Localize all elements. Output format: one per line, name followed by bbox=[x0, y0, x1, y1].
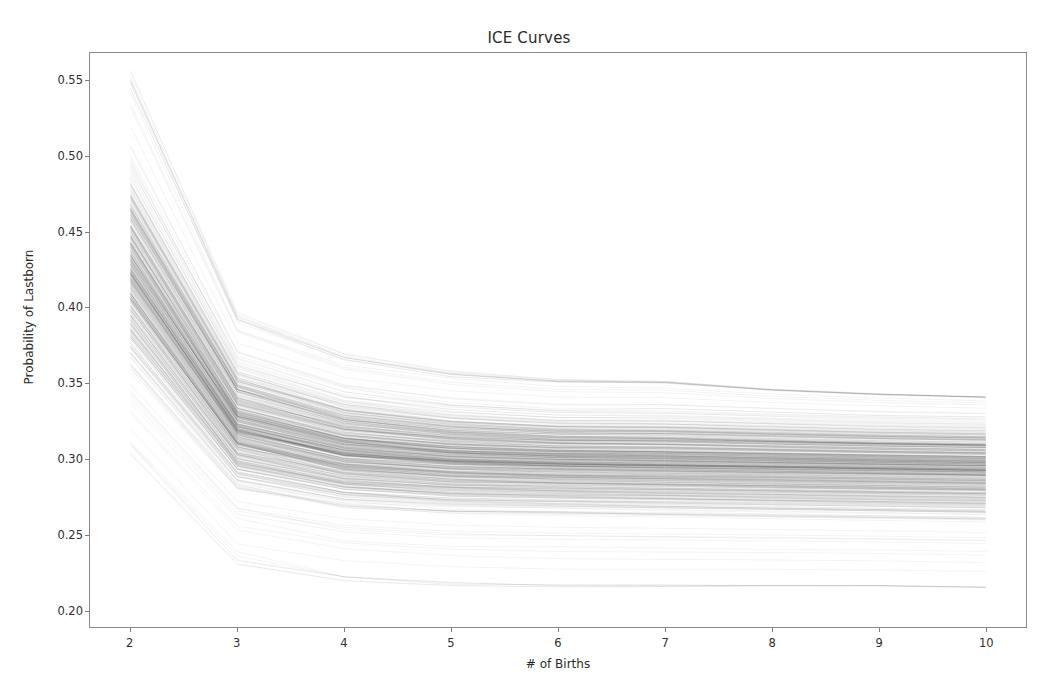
x-tick-label: 4 bbox=[324, 636, 364, 650]
x-tick-mark bbox=[665, 628, 666, 632]
x-tick-label: 7 bbox=[645, 636, 685, 650]
x-tick-mark bbox=[879, 628, 880, 632]
x-tick-label: 3 bbox=[217, 636, 257, 650]
y-tick-mark bbox=[85, 535, 89, 536]
x-tick-label: 6 bbox=[538, 636, 578, 650]
x-tick-label: 9 bbox=[859, 636, 899, 650]
y-tick-mark bbox=[85, 80, 89, 81]
y-tick-mark bbox=[85, 156, 89, 157]
y-tick-mark bbox=[85, 611, 89, 612]
x-tick-label: 8 bbox=[752, 636, 792, 650]
x-axis-ticks: 2345678910 bbox=[0, 0, 1058, 699]
y-tick-mark bbox=[85, 459, 89, 460]
x-tick-mark bbox=[451, 628, 452, 632]
ice-curves-figure: ICE Curves 0.200.250.300.350.400.450.500… bbox=[0, 0, 1058, 699]
x-tick-mark bbox=[986, 628, 987, 632]
y-axis-label: Probability of Lastborn bbox=[22, 227, 36, 407]
y-tick-mark bbox=[85, 232, 89, 233]
x-tick-mark bbox=[344, 628, 345, 632]
x-tick-mark bbox=[237, 628, 238, 632]
x-tick-label: 10 bbox=[966, 636, 1006, 650]
x-tick-mark bbox=[130, 628, 131, 632]
x-tick-mark bbox=[558, 628, 559, 632]
y-tick-mark bbox=[85, 307, 89, 308]
y-tick-mark bbox=[85, 383, 89, 384]
x-axis-label: # of Births bbox=[89, 657, 1027, 671]
x-tick-label: 5 bbox=[431, 636, 471, 650]
x-tick-mark bbox=[772, 628, 773, 632]
x-tick-label: 2 bbox=[110, 636, 150, 650]
